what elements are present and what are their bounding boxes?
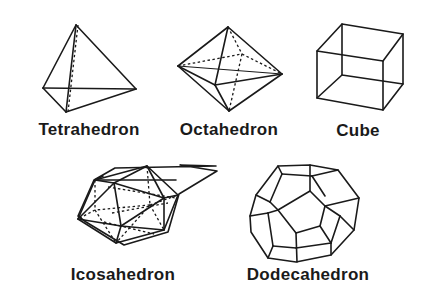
octahedron-figure	[178, 27, 282, 111]
icosahedron-figure	[78, 165, 217, 245]
cube-label: Cube	[336, 121, 380, 141]
dodecahedron-label: Dodecahedron	[247, 265, 370, 285]
dodecahedron-figure	[250, 165, 359, 262]
solids-drawing	[0, 0, 428, 295]
cube-figure	[317, 24, 403, 110]
tetrahedron-figure	[43, 25, 136, 112]
icosahedron-label: Icosahedron	[71, 265, 175, 285]
octahedron-label: Octahedron	[180, 120, 278, 140]
tetrahedron-label: Tetrahedron	[38, 120, 139, 140]
platonic-solids-diagram: Tetrahedron Octahedron Cube Icosahedron …	[0, 0, 428, 295]
